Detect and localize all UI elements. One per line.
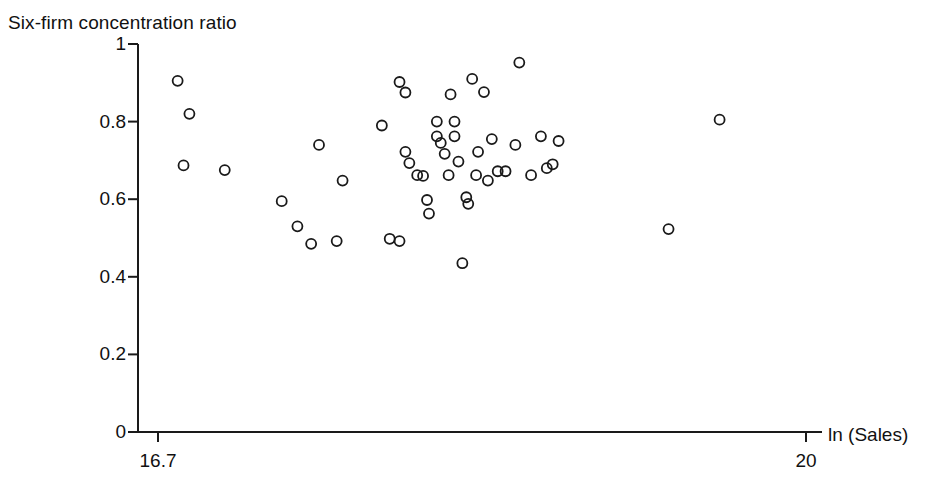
scatter-point [487, 134, 497, 144]
scatter-point [526, 170, 536, 180]
x-axis-ticks [158, 432, 806, 442]
scatter-point [457, 258, 467, 268]
scatter-point [514, 58, 524, 68]
scatter-point [179, 160, 189, 170]
scatter-point [440, 149, 450, 159]
scatter-point [664, 224, 674, 234]
scatter-point [450, 117, 460, 127]
scatter-point [220, 165, 230, 175]
scatter-point [400, 147, 410, 157]
y-tick-label: 0 [8, 421, 126, 443]
scatter-point [473, 147, 483, 157]
scatter-point [424, 209, 434, 219]
y-tick-label: 0.2 [8, 343, 126, 365]
scatter-point [314, 140, 324, 150]
scatter-point [450, 131, 460, 141]
scatter-point [432, 117, 442, 127]
plot-canvas [0, 0, 928, 490]
y-tick-label: 0.4 [8, 266, 126, 288]
scatter-point [471, 170, 481, 180]
scatter-point [444, 170, 454, 180]
scatter-point [418, 171, 428, 181]
scatter-point [479, 87, 489, 97]
scatter-points-group [173, 58, 725, 269]
scatter-point [277, 196, 287, 206]
scatter-point [306, 239, 316, 249]
scatter-point [404, 158, 414, 168]
y-axis-ticks [128, 44, 138, 432]
scatter-point [395, 236, 405, 246]
scatter-point [377, 120, 387, 130]
scatter-point [510, 140, 520, 150]
scatter-point [463, 199, 473, 209]
scatter-point [332, 236, 342, 246]
scatter-point [422, 195, 432, 205]
scatter-point [446, 89, 456, 99]
scatter-point [385, 234, 395, 244]
scatter-point [400, 88, 410, 98]
y-tick-label: 1 [8, 33, 126, 55]
scatter-point [338, 176, 348, 186]
scatter-point [173, 76, 183, 86]
scatter-point [461, 192, 471, 202]
scatter-chart-figure: Six-firm concentration ratio ln (Sales) … [0, 0, 928, 490]
axis-lines [138, 44, 822, 432]
y-tick-label: 0.8 [8, 111, 126, 133]
scatter-point [715, 115, 725, 125]
scatter-point [184, 109, 194, 119]
scatter-point [453, 157, 463, 167]
y-tick-label: 0.6 [8, 188, 126, 210]
x-tick-label: 16.7 [140, 450, 177, 472]
scatter-point [483, 176, 493, 186]
scatter-point [467, 74, 477, 84]
scatter-point [292, 221, 302, 231]
scatter-point [395, 77, 405, 87]
x-tick-label: 20 [795, 450, 816, 472]
scatter-point [554, 136, 564, 146]
scatter-point [536, 131, 546, 141]
